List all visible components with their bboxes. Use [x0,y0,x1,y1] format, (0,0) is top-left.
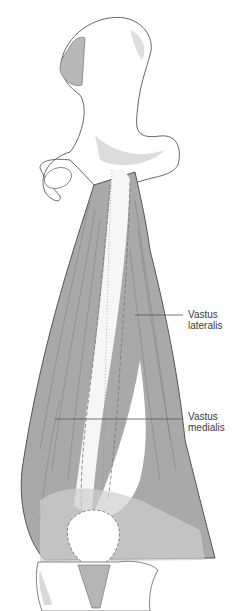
label-line: Vastus [188,309,222,320]
label-line: medialis [188,422,225,433]
label-vastus-lateralis: Vastus lateralis [188,309,222,331]
label-line: lateralis [188,320,222,331]
label-vastus-medialis: Vastus medialis [188,411,225,433]
thigh-illustration [0,0,235,611]
iliac-fossa [60,37,85,86]
label-line: Vastus [188,411,225,422]
